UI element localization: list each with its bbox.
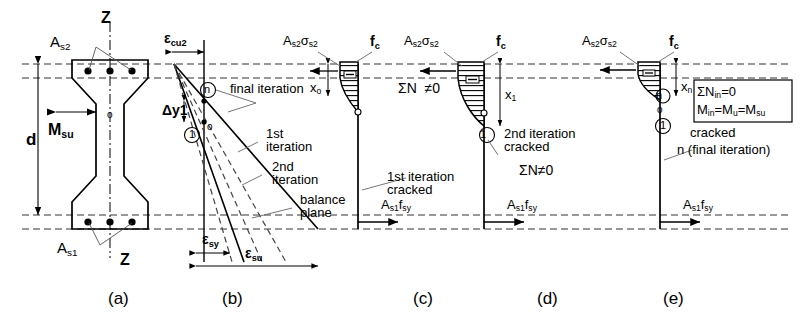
marker-label-1-b: 1 [189,129,195,140]
label-esu: εsu [245,246,262,263]
label-fc-d: fc [496,34,506,51]
label-2nd-iteration: 2nditeration [272,160,318,186]
equation-line-1: ΣNin=0 [697,85,736,100]
label-fc-e: fc [669,34,679,51]
centroid-mark-b: o [207,121,213,132]
panel-label-c: (c) [413,290,433,307]
label-delta-y1: Δy1 [162,103,188,117]
marker-label-1-e: 1 [660,120,666,131]
panel-d-centroid-marker [481,110,487,116]
label-x1-d: x1 [505,88,516,103]
label-depth-d: d [26,131,36,148]
label-as2-sigma-c: As2σs2 [283,34,318,49]
label-xn-e: xn [681,80,692,95]
label-as1fsy-c: As1fsy [381,198,411,213]
label-sumn-c: ΣN ≠0 [398,81,440,95]
label-final-iteration: final iteration [230,82,304,95]
label-sumn-d: ΣN≠0 [519,163,553,177]
axis-label-z-bottom: Z [120,252,130,268]
equation-line-2: Min=Mu=Msu [697,103,765,118]
figure-root: o o [0,0,812,326]
label-msu: Msu [48,122,74,140]
panel-b-leaders [216,90,292,218]
label-xo-c: xo [310,81,321,96]
panel-label-a: (a) [108,290,129,307]
marker-label-n-e: n [656,90,662,101]
label-as2-sigma-d: As2σs2 [404,34,439,49]
marker-label-n-b: n [204,84,210,95]
label-esy: εsy [202,232,219,249]
label-cracked-e: cracked [690,126,736,139]
label-final-iteration-e: n (final iteration) [677,143,770,156]
label-as2-sigma-e: As2σs2 [582,34,617,49]
panel-d-stress-block [458,62,484,126]
label-1st-iteration: 1stiteration [266,127,312,153]
label-2nd-iteration-cracked: 2nd iterationcracked [504,127,576,153]
panel-a-group: o [38,22,148,258]
axis-label-z-top: Z [101,10,111,26]
marker-label-o-e: o [657,105,663,115]
panel-label-d: (d) [537,290,558,307]
label-as2-a: As2 [50,34,70,52]
panel-label-b: (b) [222,290,243,307]
rebar-dots [84,67,135,225]
label-1st-iteration-cracked: 1st iterationcracked [387,170,454,196]
centroid-mark-a: o [107,109,113,120]
panel-c-stress-block [340,62,358,112]
label-as1fsy-e: As1fsy [683,198,713,213]
label-balance-plane: balanceplane [300,193,346,219]
marker-label-1-d: 1 [480,129,486,140]
label-ecu2: εcu2 [164,31,187,48]
label-as1-a: As1 [57,240,77,258]
panel-c-centroid-marker [355,109,361,115]
panel-label-e: (e) [663,290,684,307]
label-fc-c: fc [370,34,380,51]
label-as1fsy-d: As1fsy [507,198,537,213]
